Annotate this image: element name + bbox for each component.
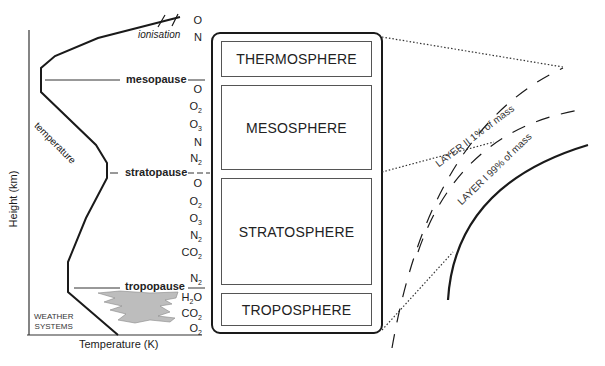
- chem-meso-o3: O3: [172, 118, 202, 132]
- chem-tropo-o2: O2: [172, 322, 202, 336]
- chem-strato-o: O: [172, 177, 202, 189]
- chem-tropo-co2: CO2: [172, 307, 202, 321]
- weather-systems-label: WEATHER SYSTEMS: [34, 312, 73, 332]
- chem-meso-n: N: [172, 136, 202, 148]
- chem-strato-n2b: N2: [172, 272, 202, 286]
- chem-strato-n2: N2: [172, 229, 202, 243]
- cloud-shape: [98, 291, 178, 323]
- chem-meso-o: O: [172, 83, 202, 95]
- layer-ii-boundary: [392, 68, 563, 348]
- layer-i-boundary: [418, 110, 580, 252]
- chem-strato-o3: O3: [172, 212, 202, 226]
- stratosphere-box: STRATOSPHERE: [221, 178, 372, 285]
- y-axis-label: Height (km): [7, 164, 19, 234]
- troposphere-box: TROPOSPHERE: [221, 293, 372, 326]
- chem-meso-n2: N2: [172, 152, 202, 166]
- chem-strato-co2: CO2: [172, 246, 202, 260]
- thermosphere-box: THERMOSPHERE: [221, 41, 372, 77]
- chem-thermo-o: O: [172, 14, 202, 26]
- x-axis-label: Temperature (K): [79, 338, 158, 350]
- chem-meso-o2: O2: [172, 100, 202, 114]
- chem-thermo-n: N: [172, 31, 202, 43]
- chem-strato-o2: O2: [172, 195, 202, 209]
- mesosphere-box: MESOSPHERE: [221, 85, 372, 170]
- chem-tropo-h2o: H2O: [172, 291, 202, 305]
- earth-surface: [448, 145, 588, 300]
